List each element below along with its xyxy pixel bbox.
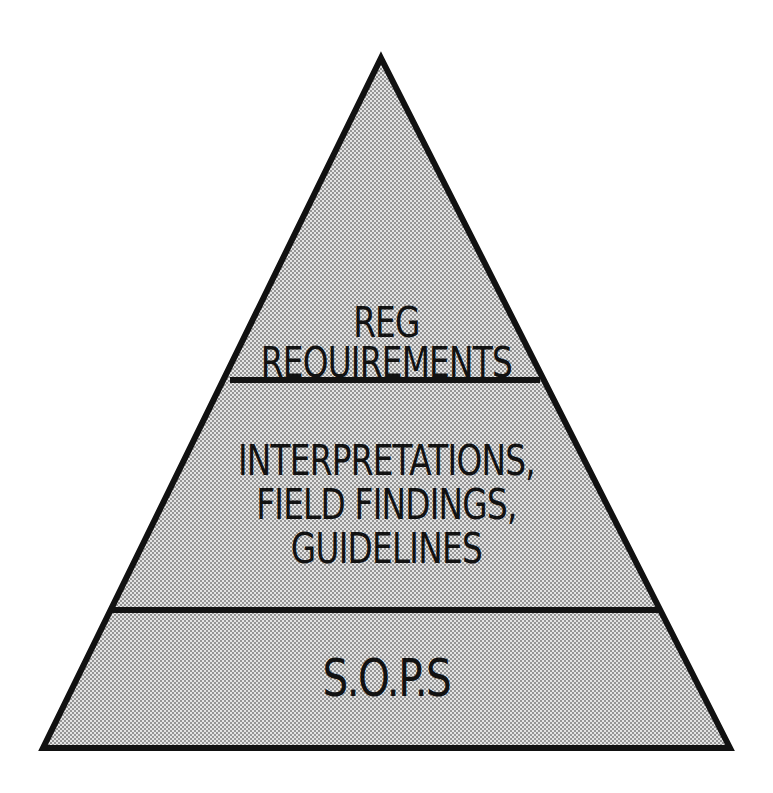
tier-top-line-1: REG xyxy=(85,302,688,342)
tier-bot-line-1: S.O.P.s xyxy=(85,652,688,704)
tier-mid-line-2: FIELD FINDINGS, xyxy=(85,484,688,528)
tier-label-sops: S.O.P.s xyxy=(85,652,688,704)
pyramid-body xyxy=(43,58,730,748)
tier-top-line-2: REQUIREMENTS xyxy=(85,342,688,382)
tier-mid-line-3: GUIDELINES xyxy=(85,528,688,572)
tier-mid-line-1: INTERPRETATIONS, xyxy=(85,440,688,484)
tier-label-reg-requirements: REG REQUIREMENTS xyxy=(85,302,688,382)
tier-label-interpretations: INTERPRETATIONS, FIELD FINDINGS, GUIDELI… xyxy=(85,440,688,572)
